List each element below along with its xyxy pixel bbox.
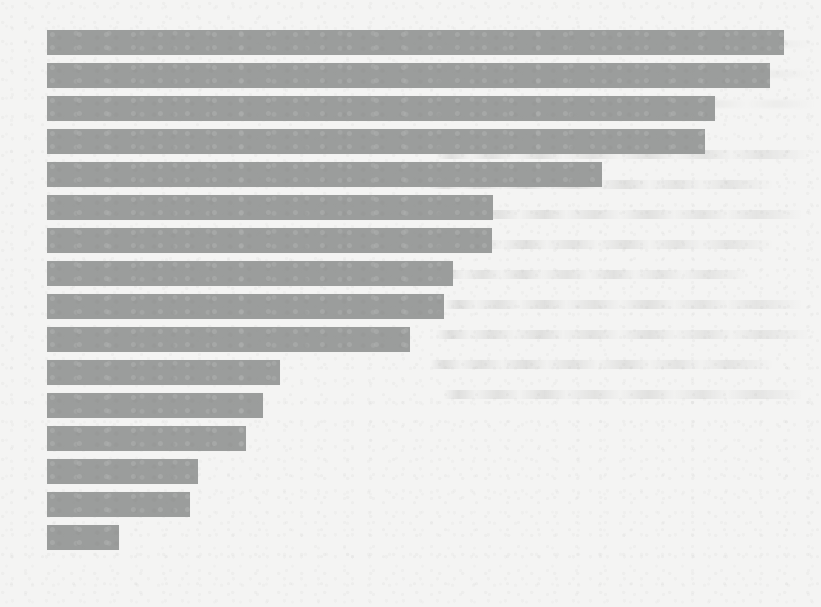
bar-11 (47, 360, 280, 385)
bar-12 (47, 393, 263, 418)
bar-3 (47, 96, 715, 121)
bar-5 (47, 162, 602, 187)
bar-15 (47, 492, 190, 517)
bar-7 (47, 228, 492, 253)
bar-chart-plot-area (0, 0, 821, 607)
bar-9 (47, 294, 444, 319)
bar-13 (47, 426, 246, 451)
bar-4 (47, 129, 705, 154)
bar-8 (47, 261, 453, 286)
bar-2 (47, 63, 770, 88)
bar-14 (47, 459, 198, 484)
bar-16 (47, 525, 119, 550)
bar-1 (47, 30, 784, 55)
bar-10 (47, 327, 410, 352)
bar-6 (47, 195, 493, 220)
chart-page (0, 0, 821, 607)
